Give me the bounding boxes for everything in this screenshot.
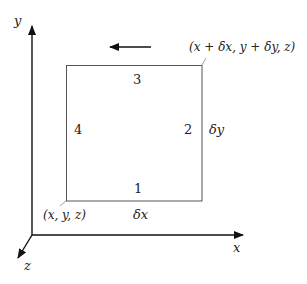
- side-label-4: 4: [74, 122, 82, 137]
- side-label-1: 1: [134, 181, 142, 196]
- y-axis-label: y: [13, 13, 22, 28]
- z-axis-label: z: [23, 258, 31, 273]
- x-axis-label: x: [233, 240, 241, 255]
- corner-label-bottom-left: (x, y, z): [43, 208, 86, 222]
- diagram-canvas: y x z 3 4 2 1 δy δx (x, y, z) (x + δx, y…: [0, 0, 307, 284]
- side-label-2: 2: [184, 122, 192, 137]
- corner-leader-bottom-left: [60, 201, 66, 206]
- side-label-3: 3: [133, 72, 141, 87]
- corner-leader-top-right: [202, 58, 206, 65]
- corner-label-top-right: (x + δx, y + δy, z): [189, 40, 296, 54]
- height-label: δy: [209, 122, 225, 137]
- width-label: δx: [133, 207, 149, 222]
- z-axis: [18, 235, 32, 258]
